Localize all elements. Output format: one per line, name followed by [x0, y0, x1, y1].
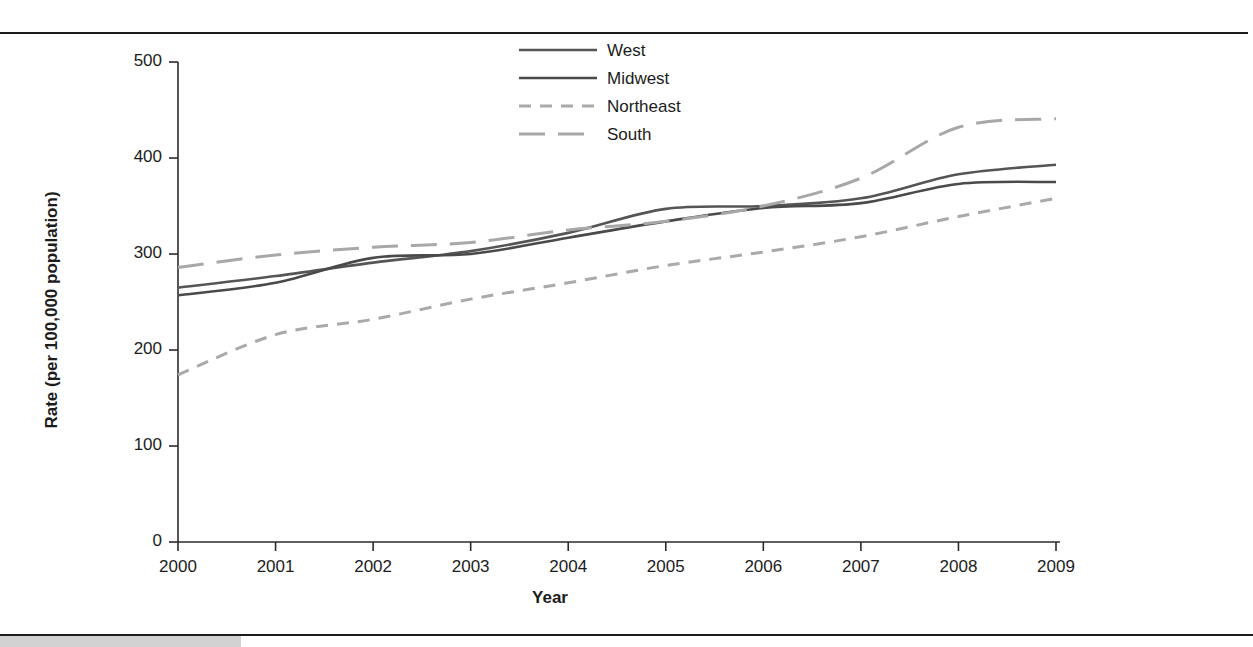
legend-line-swatch	[519, 71, 597, 85]
x-tick-label: 2003	[431, 557, 511, 577]
x-tick-label: 2001	[236, 557, 316, 577]
x-tick-label: 2008	[918, 557, 998, 577]
x-tick-label: 2009	[1016, 557, 1096, 577]
x-axis-title: Year	[0, 588, 1100, 608]
legend-item-northeast[interactable]: Northeast	[519, 92, 779, 120]
x-tick-label: 2000	[138, 557, 218, 577]
legend-label: Midwest	[607, 70, 669, 87]
legend-item-midwest[interactable]: Midwest	[519, 64, 779, 92]
legend-item-south[interactable]: South	[519, 120, 779, 148]
y-tick-label: 0	[102, 531, 162, 551]
series-line-midwest	[178, 182, 1056, 296]
x-tick-label: 2005	[626, 557, 706, 577]
x-tick-label: 2004	[528, 557, 608, 577]
x-tick-label: 2006	[723, 557, 803, 577]
chart-legend: WestMidwestNortheastSouth	[519, 36, 779, 148]
y-tick-label: 400	[102, 147, 162, 167]
x-tick-label: 2002	[333, 557, 413, 577]
legend-line-swatch	[519, 127, 597, 141]
legend-label: South	[607, 126, 651, 143]
y-tick-label: 200	[102, 339, 162, 359]
legend-label: Northeast	[607, 98, 681, 115]
legend-label: West	[607, 42, 645, 59]
legend-line-swatch	[519, 99, 597, 113]
x-tick-label: 2007	[821, 557, 901, 577]
chart-figure: Rate (per 100,000 population) Year 01002…	[0, 0, 1253, 647]
y-axis-title: Rate (per 100,000 population)	[42, 160, 62, 460]
y-tick-label: 500	[102, 51, 162, 71]
y-tick-label: 300	[102, 243, 162, 263]
legend-item-west[interactable]: West	[519, 36, 779, 64]
legend-line-swatch	[519, 43, 597, 57]
y-tick-label: 100	[102, 435, 162, 455]
